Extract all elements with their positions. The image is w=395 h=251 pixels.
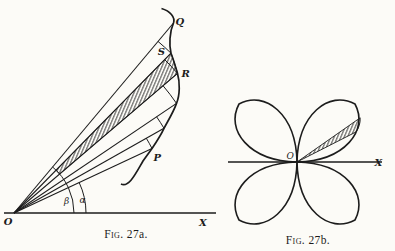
sector-arc bbox=[157, 117, 164, 129]
radius-ray-q bbox=[14, 23, 174, 213]
point-label-r: R bbox=[181, 68, 190, 79]
figure-27a-drawing: O X Q S R P β α bbox=[4, 9, 216, 229]
sector-arc bbox=[146, 138, 152, 148]
x-axis-label: X bbox=[374, 157, 384, 168]
caption-prefix: Fig. bbox=[104, 228, 123, 240]
x-axis-label: X bbox=[198, 217, 208, 228]
caption-number: 27b. bbox=[308, 234, 330, 246]
caption-prefix: Fig. bbox=[286, 234, 305, 246]
point-label-p: P bbox=[153, 152, 162, 163]
origin-label: O bbox=[4, 216, 13, 227]
textbook-figure-page: O X Q S R P β α O X bbox=[0, 0, 395, 251]
figure-27b-drawing: O X bbox=[228, 100, 384, 224]
caption-number: 27a. bbox=[127, 228, 148, 240]
point-label-q: Q bbox=[176, 16, 185, 27]
radius-rays bbox=[14, 23, 178, 213]
radius-ray-r bbox=[14, 73, 178, 213]
point-label-s: S bbox=[158, 46, 165, 57]
figure-27b-caption: Fig. 27b. bbox=[268, 234, 348, 246]
beta-angle-label: β bbox=[63, 196, 69, 206]
alpha-angle-label: α bbox=[79, 195, 85, 205]
figures-canvas: O X Q S R P β α O X bbox=[0, 0, 395, 251]
rose-petal-se bbox=[297, 162, 359, 224]
radius-ray-s bbox=[14, 53, 171, 213]
rose-petal-sw bbox=[235, 162, 297, 224]
figure-27a-caption: Fig. 27a. bbox=[86, 228, 166, 240]
origin-label: O bbox=[287, 151, 295, 161]
radius-ray bbox=[14, 103, 177, 213]
sector-arc bbox=[163, 86, 177, 104]
